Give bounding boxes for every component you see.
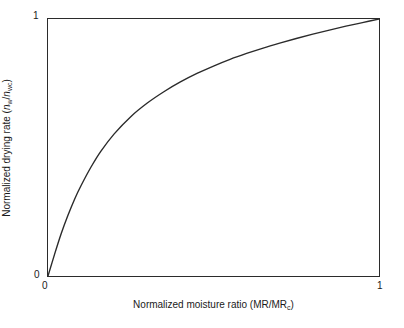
x-axis-title: Normalized moisture ratio (MR/MRc) — [47, 299, 380, 312]
y-axis-title-denominator-symbol: n — [1, 91, 12, 97]
x-axis-title-lead: Normalized moisture ratio (MR/MR — [133, 299, 287, 310]
y-axis-title-lead: Normalized drying rate ( — [1, 110, 12, 217]
figure-canvas: 1 0 0 1 Normalized moisture ratio (MR/MR… — [0, 0, 404, 328]
x-axis-title-subscript: c — [287, 304, 291, 311]
y-axis-title-tail: ) — [1, 79, 12, 82]
y-axis-tick-label-top: 1 — [33, 11, 39, 21]
drying-rate-curve — [48, 19, 379, 276]
y-axis-title-container: Normalized drying rate (nw/nwc) — [0, 18, 14, 277]
x-axis-tick-label-left: 0 — [42, 281, 48, 291]
x-axis-tick-label-right: 1 — [377, 281, 383, 291]
y-axis-title-numerator-symbol: n — [1, 104, 12, 110]
y-axis-title: Normalized drying rate (nw/nwc) — [1, 79, 14, 217]
curve-svg — [48, 19, 379, 276]
y-axis-tick-label-bottom: 0 — [34, 270, 40, 280]
plot-frame — [47, 18, 380, 277]
y-axis-title-denominator-subscript: wc — [6, 82, 13, 91]
y-axis-title-numerator-subscript: w — [6, 99, 13, 104]
x-axis-title-tail: ) — [291, 299, 294, 310]
